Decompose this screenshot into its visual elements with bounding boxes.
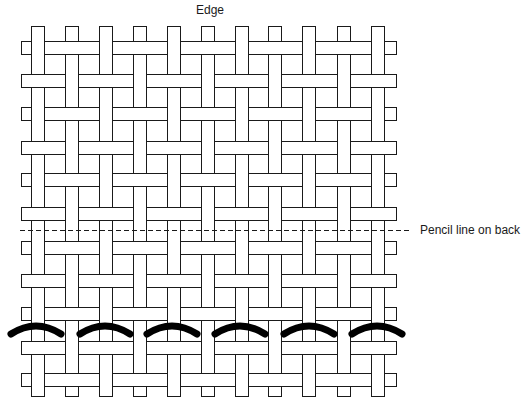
crossing-patch (302, 342, 317, 354)
crossing-patch (167, 208, 182, 220)
crossing-patch (337, 308, 352, 320)
crossing-patch (133, 108, 148, 120)
crossing-patch (371, 208, 386, 220)
vertical-strip (66, 27, 79, 397)
crossing-patch (268, 108, 283, 120)
crossing-patch (337, 108, 352, 120)
vertical-strip (202, 27, 215, 397)
crossing-patch (65, 242, 80, 254)
crossing-patch (235, 275, 250, 287)
crossing-patch (235, 75, 250, 87)
crossing-patch (268, 374, 283, 386)
vertical-strip (134, 27, 147, 397)
vertical-strip (269, 27, 282, 397)
crossing-patch (201, 374, 216, 386)
crossing-patch (268, 308, 283, 320)
crossing-patch (302, 208, 317, 220)
crossing-patch (167, 275, 182, 287)
crossing-patch (65, 108, 80, 120)
crossing-patch (235, 142, 250, 154)
crossing-patch (99, 208, 114, 220)
weave-strips (22, 27, 397, 397)
crossing-patch (65, 42, 80, 54)
crossing-patch (337, 174, 352, 186)
crossing-patch (167, 342, 182, 354)
crossing-patch (302, 275, 317, 287)
crossing-patch (268, 174, 283, 186)
crossing-patch (201, 242, 216, 254)
crossing-patch (133, 42, 148, 54)
crossing-patch (268, 42, 283, 54)
crossing-patch (31, 275, 46, 287)
crossing-patch (302, 75, 317, 87)
crossing-patch (133, 374, 148, 386)
crossing-patch (99, 342, 114, 354)
crossing-patch (371, 275, 386, 287)
crossing-patch (133, 174, 148, 186)
crossing-patch (99, 275, 114, 287)
weave-diagram (0, 0, 530, 408)
crossing-patch (371, 75, 386, 87)
crossing-patch (167, 142, 182, 154)
crossing-patch (133, 242, 148, 254)
crossing-patch (337, 42, 352, 54)
crossing-patch (371, 142, 386, 154)
crossing-patch (31, 208, 46, 220)
crossing-patch (99, 75, 114, 87)
crossing-patch (337, 242, 352, 254)
crossing-patch (167, 75, 182, 87)
crossing-patch (65, 374, 80, 386)
crossing-patch (201, 42, 216, 54)
crossing-patch (31, 342, 46, 354)
crossing-patch (99, 142, 114, 154)
pencil-line-label: Pencil line on back (420, 223, 520, 237)
edge-label: Edge (196, 3, 224, 17)
crossing-patch (268, 242, 283, 254)
crossing-patch (201, 308, 216, 320)
crossing-patch (31, 142, 46, 154)
crossing-patch (371, 342, 386, 354)
crossing-patch (201, 108, 216, 120)
crossing-patch (302, 142, 317, 154)
crossing-patch (65, 308, 80, 320)
crossing-patch (235, 342, 250, 354)
crossing-patch (65, 174, 80, 186)
crossing-patch (235, 208, 250, 220)
crossing-patch (337, 374, 352, 386)
crossing-patch (133, 308, 148, 320)
vertical-strip (338, 27, 351, 397)
crossing-patch (31, 75, 46, 87)
crossing-patch (201, 174, 216, 186)
